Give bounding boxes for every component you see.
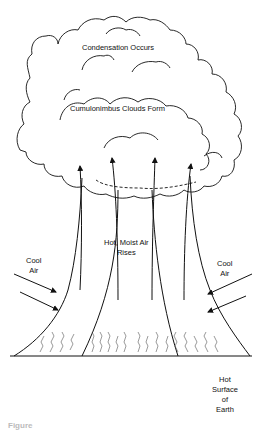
label-hot-surface-line1: Hot (212, 375, 238, 385)
label-cool-air-left-line1: Cool (26, 256, 41, 266)
label-rising-air-line2: Rises (104, 248, 149, 258)
label-hot-surface-line4: Earth (212, 405, 238, 415)
inflow-arrow-icon (20, 292, 58, 310)
label-condensation: Condensation Occurs (82, 43, 154, 53)
label-cool-air-right-line2: Air (217, 269, 232, 279)
up-arrow-icon (112, 158, 118, 300)
inflow-arrow-icon (14, 274, 56, 292)
label-cool-air-left: Cool Air (26, 256, 41, 276)
up-arrow-icon (80, 166, 82, 290)
label-rising-air-line1: Hot, Moist Air (104, 238, 149, 248)
rising-air-arrows (80, 158, 191, 300)
convection-column (10, 176, 252, 356)
label-hot-surface: Hot Surface of Earth (212, 375, 238, 415)
label-rising-air: Hot, Moist Air Rises (104, 238, 149, 258)
label-hot-surface-line3: of (212, 395, 238, 405)
label-cool-air-left-line2: Air (26, 266, 41, 276)
figure-caption: Figure (8, 421, 32, 430)
label-hot-surface-line2: Surface (212, 385, 238, 395)
label-cool-air-right: Cool Air (217, 259, 232, 279)
label-cool-air-right-line1: Cool (217, 259, 232, 269)
heat-waves (40, 332, 218, 352)
label-cumulonimbus: Cumulonimbus Clouds Form (70, 104, 165, 114)
cool-air-arrows (14, 274, 252, 312)
